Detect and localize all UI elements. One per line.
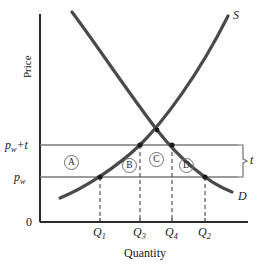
price-label-pw: pw (14, 171, 25, 187)
region-label-d: D (179, 158, 194, 173)
tick-label-q4-sub: 4 (174, 232, 178, 241)
tick-label-q3: Q3 (133, 226, 146, 242)
price-label-pw-plus-t: pw+t (5, 139, 28, 155)
tick-label-q1-sub: 1 (102, 232, 106, 241)
tick-label-q2-sub: 2 (207, 232, 211, 241)
region-label-a: A (64, 155, 79, 170)
tick-label-q4-base: Q (165, 225, 174, 239)
tax-brace-icon (238, 145, 247, 177)
axes-group (40, 14, 248, 222)
region-label-c: C (149, 152, 164, 167)
tick-label-q4: Q4 (165, 226, 178, 242)
point-q1 (97, 174, 102, 179)
tick-label-q1-base: Q (93, 225, 102, 239)
supply-curve (60, 16, 228, 198)
region-label-b: B (122, 158, 137, 173)
supply-demand-tariff-figure: Price Quantity 0 pw+t pw Q1 Q3 Q4 Q2 S D… (0, 0, 277, 268)
tax-bracket-label: t (250, 154, 253, 166)
point-q4 (169, 142, 174, 147)
point-q3 (137, 142, 142, 147)
price-label-pw-sub: w (20, 177, 25, 186)
tax-bracket-group (238, 145, 247, 177)
tick-label-q2-base: Q (198, 225, 207, 239)
point-equilibrium (155, 128, 160, 133)
demand-curve-label: D (238, 190, 247, 202)
tick-label-q2: Q2 (198, 226, 211, 242)
x-axis-label: Quantity (124, 247, 166, 259)
y-axis-label: Price (22, 55, 33, 78)
tick-label-q3-sub: 3 (142, 232, 146, 241)
point-q2 (202, 174, 207, 179)
supply-curve-label: S (233, 9, 239, 21)
tick-label-q1: Q1 (93, 226, 106, 242)
price-label-pw-plus-t-suffix: +t (16, 138, 27, 152)
origin-label: 0 (26, 216, 32, 228)
tick-label-q3-base: Q (133, 225, 142, 239)
